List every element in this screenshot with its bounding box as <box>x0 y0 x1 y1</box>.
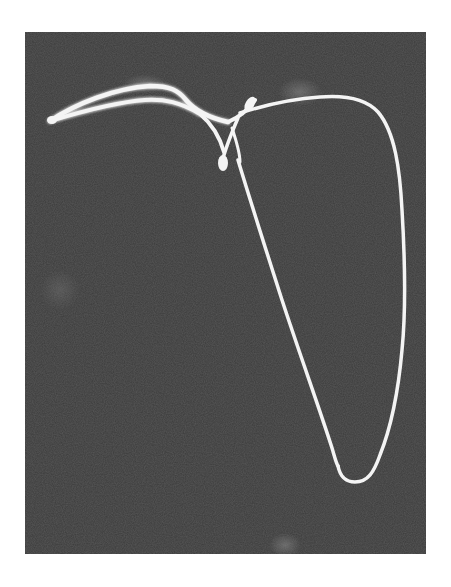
haze-spot <box>40 270 80 310</box>
trace-knot-blob <box>218 155 228 171</box>
trace-plot <box>25 32 426 554</box>
trace-loop-tip <box>47 116 57 124</box>
oscilloscope-photo <box>25 32 426 554</box>
